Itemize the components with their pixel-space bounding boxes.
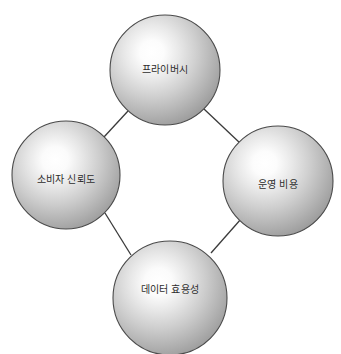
connector-privacy-consumer-trust	[104, 111, 128, 137]
connector-operating-cost-data-utility	[211, 219, 241, 253]
connector-privacy-operating-cost	[204, 109, 241, 144]
connector-consumer-trust-data-utility	[105, 213, 131, 255]
node-privacy[interactable]	[110, 15, 220, 125]
node-consumer-trust[interactable]	[12, 121, 120, 229]
connector-group	[104, 109, 241, 255]
node-operating-cost[interactable]	[223, 126, 333, 236]
node-group	[12, 15, 333, 354]
node-data-utility[interactable]	[113, 241, 227, 354]
diagram-canvas: 프라이버시 소비자 신뢰도 운영 비용 데이터 효용성	[0, 0, 341, 354]
diagram-svg	[0, 0, 341, 354]
